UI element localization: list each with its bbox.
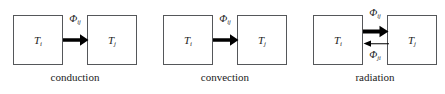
arrow-right-thick-conduction	[63, 33, 89, 47]
body-box-left-conduction: Ti	[13, 15, 63, 65]
caption-radiation: radiation	[313, 72, 437, 83]
diagram-radiation: Ti Tj Φij Φji radiation	[313, 0, 437, 94]
heat-transfer-figure: Ti Tj Φij conduction Ti Tj Φij convectio…	[0, 0, 445, 94]
flux-label-ji-radiation: Φji	[361, 50, 389, 61]
diagram-convection: Ti Tj Φij convection	[163, 0, 287, 94]
flux-label-ij-conduction: Φij	[61, 14, 89, 25]
flux-label-ij-radiation: Φij	[361, 8, 389, 19]
body-label-right-convection: Tj	[238, 35, 286, 46]
body-box-left-radiation: Ti	[313, 15, 363, 65]
body-label-right-conduction: Tj	[88, 35, 136, 46]
arrow-right-thick-convection	[213, 33, 239, 47]
body-label-left-radiation: Ti	[314, 35, 362, 46]
caption-conduction: conduction	[13, 72, 137, 83]
caption-convection: convection	[163, 72, 287, 83]
flux-label-ij-convection: Φij	[211, 14, 239, 25]
body-box-right-radiation: Tj	[387, 15, 437, 65]
body-label-left-conduction: Ti	[14, 35, 62, 46]
body-box-right-conduction: Tj	[87, 15, 137, 65]
diagram-conduction: Ti Tj Φij conduction	[13, 0, 137, 94]
body-label-right-radiation: Tj	[388, 35, 436, 46]
body-box-right-convection: Tj	[237, 15, 287, 65]
arrow-left-thin-radiation	[363, 38, 389, 49]
body-label-left-convection: Ti	[164, 35, 212, 46]
body-box-left-convection: Ti	[163, 15, 213, 65]
arrow-right-thick-radiation	[363, 25, 389, 38]
